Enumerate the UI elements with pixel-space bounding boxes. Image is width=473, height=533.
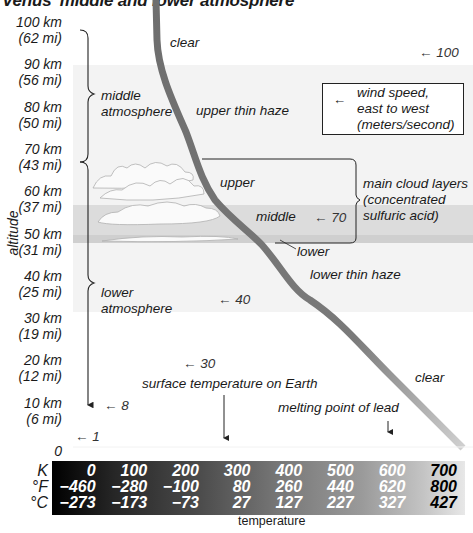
wind-speed-100: ← 100 bbox=[419, 45, 459, 60]
label-line: atmosphere bbox=[101, 301, 172, 317]
left-arrow-icon: ← bbox=[314, 210, 331, 225]
scale-value-F: 260 bbox=[257, 479, 303, 495]
upper-thin-haze-label: upper thin haze bbox=[196, 103, 289, 119]
label-line: sulfuric acid) bbox=[363, 208, 468, 224]
lower-cloud-pointer bbox=[280, 240, 296, 249]
scale-value-C: 27 bbox=[205, 495, 251, 511]
unit-fahrenheit: °F bbox=[8, 479, 48, 495]
label-line: (meters/second) bbox=[357, 117, 455, 133]
scale-value-F: 80 bbox=[205, 479, 251, 495]
label-line: east to west bbox=[357, 101, 455, 117]
wind-value: 40 bbox=[235, 292, 250, 307]
label-line: lower bbox=[101, 285, 172, 301]
scale-value-C: −73 bbox=[153, 495, 199, 511]
middle-atmosphere-brace bbox=[80, 30, 94, 162]
left-arrow-icon: ← bbox=[183, 356, 200, 371]
scale-value-K: 700 bbox=[411, 463, 457, 479]
scale-value-C: −173 bbox=[102, 495, 148, 511]
scale-value-K: 500 bbox=[308, 463, 354, 479]
wind-value: 1 bbox=[92, 429, 100, 444]
left-arrow-icon: ← bbox=[419, 45, 436, 60]
diagram-graphics bbox=[0, 0, 473, 533]
left-arrow-icon: ← bbox=[104, 398, 121, 413]
wind-speed-8: ← 8 bbox=[104, 398, 129, 413]
scale-value-F: 800 bbox=[411, 479, 457, 495]
wind-value: 70 bbox=[331, 210, 346, 225]
cloud-layers-bracket bbox=[202, 159, 360, 243]
left-arrow-icon: ← bbox=[333, 92, 346, 107]
wind-value: 8 bbox=[121, 398, 129, 413]
clear-bottom-label: clear bbox=[415, 370, 444, 386]
scale-value-F: 620 bbox=[360, 479, 406, 495]
lower-cloud-label: lower bbox=[297, 244, 329, 260]
temperature-scale-bar: 0−460−273100−280−173200−100−733008027400… bbox=[52, 461, 465, 515]
wind-value: 30 bbox=[200, 356, 215, 371]
scale-value-K: 300 bbox=[205, 463, 251, 479]
scale-value-C: 227 bbox=[308, 495, 354, 511]
wind-speed-70: ← 70 bbox=[314, 210, 346, 225]
scale-value-C: 127 bbox=[257, 495, 303, 511]
scale-value-K: 600 bbox=[360, 463, 406, 479]
earth-surface-temp-label: surface temperature on Earth bbox=[142, 376, 318, 392]
scale-value-C: −273 bbox=[50, 495, 96, 511]
label-line: wind speed, bbox=[357, 85, 455, 101]
lower-thin-haze-label: lower thin haze bbox=[310, 267, 401, 283]
legend-text: wind speed, east to west (meters/second) bbox=[357, 85, 455, 133]
upper-cloud-label: upper bbox=[220, 175, 255, 191]
scale-value-F: 440 bbox=[308, 479, 354, 495]
cloud-middle bbox=[98, 202, 220, 225]
cloud-layers-label: main cloud layers (concentrated sulfuric… bbox=[363, 176, 468, 224]
scale-value-K: 400 bbox=[257, 463, 303, 479]
wind-speed-1: ← 1 bbox=[75, 429, 100, 444]
wind-speed-legend: ← wind speed, east to west (meters/secon… bbox=[322, 83, 464, 135]
wind-value: 100 bbox=[436, 45, 459, 60]
lower-atmosphere-label: lower atmosphere bbox=[101, 285, 172, 317]
middle-cloud-label: middle bbox=[256, 209, 296, 225]
label-line: atmosphere bbox=[101, 104, 172, 120]
lead-melting-label: melting point of lead bbox=[278, 400, 399, 416]
scale-value-F: −280 bbox=[102, 479, 148, 495]
scale-value-K: 200 bbox=[153, 463, 199, 479]
middle-atmosphere-label: middle atmosphere bbox=[101, 88, 172, 120]
scale-value-K: 100 bbox=[102, 463, 148, 479]
temperature-axis-label: temperature bbox=[238, 514, 305, 528]
unit-celsius: °C bbox=[8, 495, 48, 511]
scale-value-C: 427 bbox=[411, 495, 457, 511]
scale-value-C: 327 bbox=[360, 495, 406, 511]
label-line: main cloud layers bbox=[363, 176, 468, 192]
scale-value-K: 0 bbox=[50, 463, 96, 479]
wind-speed-40: ← 40 bbox=[218, 292, 250, 307]
scale-value-F: −100 bbox=[153, 479, 199, 495]
label-line: (concentrated bbox=[363, 192, 468, 208]
left-arrow-icon: ← bbox=[218, 292, 235, 307]
left-arrow-icon: ← bbox=[75, 429, 92, 444]
label-line: middle bbox=[101, 88, 172, 104]
unit-kelvin: K bbox=[8, 463, 48, 479]
scale-value-F: −460 bbox=[50, 479, 96, 495]
clear-top-label: clear bbox=[170, 35, 199, 51]
lower-atmosphere-brace bbox=[80, 162, 94, 405]
wind-speed-30: ← 30 bbox=[183, 356, 215, 371]
cloud-lower bbox=[102, 236, 238, 241]
